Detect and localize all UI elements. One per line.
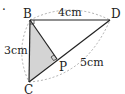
measure-bc: 3cm — [4, 44, 28, 57]
label-c: C — [24, 83, 33, 94]
shaded-triangle-bcp — [29, 20, 57, 82]
geometry-diagram: · B D C P 4cm 3cm 5cm — [0, 0, 125, 94]
measure-bd: 4cm — [58, 6, 82, 19]
label-b: B — [23, 7, 32, 21]
bullet-marker: · — [2, 3, 6, 17]
label-d: D — [111, 7, 121, 21]
measure-cd: 5cm — [80, 56, 104, 69]
label-p: P — [59, 60, 67, 74]
